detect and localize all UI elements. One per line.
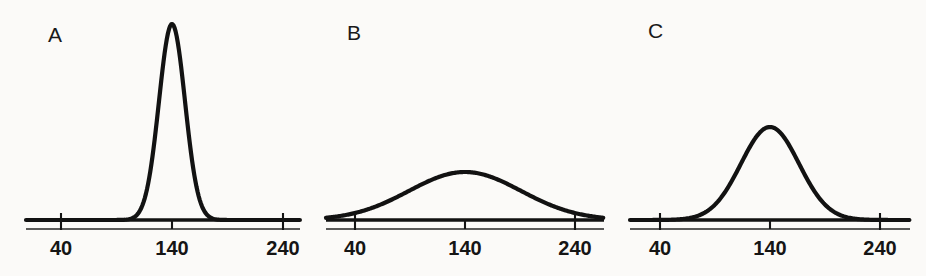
tick-label-c-240: 240 xyxy=(863,238,896,258)
tick-label-c-140: 140 xyxy=(753,238,786,258)
panel-c-curve-group xyxy=(630,127,909,220)
figure-container: A 40 140 240 B 40 140 240 C xyxy=(0,0,926,276)
panel-c-plot xyxy=(0,0,926,276)
tick-label-c-40: 40 xyxy=(649,238,671,258)
distribution-curve-c xyxy=(630,127,909,220)
